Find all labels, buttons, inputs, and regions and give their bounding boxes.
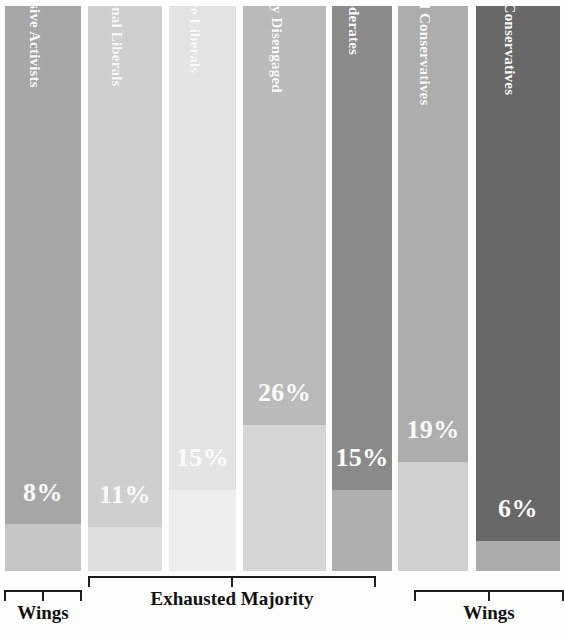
bars-area: Progressive Activists 8% Traditional Lib… [0, 0, 564, 576]
bar-label-1: Traditional Liberals [108, 6, 125, 87]
bar-label-6: Devoted Conservatives [501, 6, 518, 95]
bar-traditional-conservatives[interactable]: Traditional Conservatives 19% [398, 6, 468, 571]
bar-value-5: 19% [398, 415, 468, 445]
bar-fill-5 [398, 6, 468, 462]
bar-moderates[interactable]: Moderates 15% [332, 6, 392, 571]
bar-value-3: 26% [243, 378, 326, 408]
bracket-cap-left [414, 590, 416, 601]
bar-fill-6 [476, 6, 560, 541]
bar-value-0: 8% [5, 478, 81, 508]
bracket-center-tick [488, 592, 490, 601]
bar-fill-4 [332, 6, 392, 490]
bar-label-2: Passive Liberals [186, 6, 203, 73]
bar-progressive-activists[interactable]: Progressive Activists 8% [5, 6, 81, 571]
bar-devoted-conservatives[interactable]: Devoted Conservatives 6% [476, 6, 560, 571]
bracket-cap-right [80, 590, 82, 601]
bracket-cap-right [374, 576, 376, 587]
bar-label-5: Traditional Conservatives [416, 6, 433, 105]
bar-value-2: 15% [169, 443, 236, 473]
bracket-center-tick [231, 578, 233, 587]
bracket-label-2: Wings [414, 602, 564, 624]
bracket-label-0: Wings [4, 602, 82, 624]
bar-passive-liberals[interactable]: Passive Liberals 15% [169, 6, 236, 571]
bracket-cap-left [88, 576, 90, 587]
bar-value-6: 6% [476, 494, 560, 524]
bracket-center-tick [42, 592, 44, 601]
group-brackets: Wings Exhausted Majority Wings [0, 576, 564, 640]
bar-label-3: Politically Disengaged [268, 6, 285, 93]
bar-fill-0 [5, 6, 81, 524]
bar-politically-disengaged[interactable]: Politically Disengaged 26% [243, 6, 326, 571]
bar-fill-1 [88, 6, 162, 527]
bar-fill-2 [169, 6, 236, 490]
segmentation-bar-chart: Progressive Activists 8% Traditional Lib… [0, 0, 564, 640]
bar-traditional-liberals[interactable]: Traditional Liberals 11% [88, 6, 162, 571]
bar-value-4: 15% [332, 443, 392, 473]
bracket-label-1: Exhausted Majority [88, 588, 376, 610]
bar-value-1: 11% [88, 480, 162, 510]
bar-label-4: Moderates [345, 6, 362, 55]
bar-label-0: Progressive Activists [26, 6, 43, 88]
bracket-cap-left [4, 590, 6, 601]
